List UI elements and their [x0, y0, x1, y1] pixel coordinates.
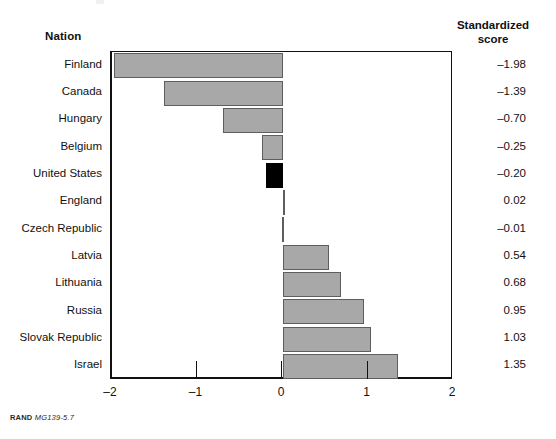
- category-label: Slovak Republic: [0, 331, 102, 343]
- category-label: Belgium: [0, 140, 102, 152]
- score-header-line-2: score: [438, 32, 548, 46]
- score-header-line-1: Standardized: [438, 18, 548, 32]
- score-value: –0.01: [460, 222, 526, 234]
- bar: [283, 299, 364, 324]
- plot-area: [110, 51, 452, 379]
- bar: [223, 108, 283, 133]
- x-axis-tick-label: –1: [176, 385, 216, 399]
- bar: [114, 53, 283, 78]
- x-axis-tick-mark: [196, 361, 197, 379]
- category-label: Latvia: [0, 249, 102, 261]
- nation-column-header: Nation: [45, 30, 81, 42]
- score-value: 1.35: [460, 358, 526, 370]
- bar: [283, 327, 371, 352]
- score-value: –0.70: [460, 112, 526, 124]
- category-label: Hungary: [0, 112, 102, 124]
- scan-artifact: [96, 0, 104, 4]
- category-label: Russia: [0, 304, 102, 316]
- category-axis-labels: FinlandCanadaHungaryBelgiumUnited States…: [0, 51, 102, 379]
- figure-code: MG139-5.7: [35, 413, 74, 422]
- bar: [164, 81, 283, 106]
- score-value: –1.39: [460, 85, 526, 97]
- category-label: England: [0, 194, 102, 206]
- score-value: 1.03: [460, 331, 526, 343]
- category-label: Israel: [0, 358, 102, 370]
- category-label: Finland: [0, 58, 102, 70]
- category-label: Czech Republic: [0, 222, 102, 234]
- source-label: RAND: [10, 413, 32, 422]
- bar: [283, 190, 285, 215]
- score-value: 0.54: [460, 249, 526, 261]
- bar: [282, 217, 284, 242]
- bar: [283, 272, 341, 297]
- category-label: Lithuania: [0, 276, 102, 288]
- x-axis-tick-label: 0: [261, 385, 301, 399]
- score-value: 0.02: [460, 194, 526, 206]
- score-value: 0.95: [460, 304, 526, 316]
- bar: [262, 135, 283, 160]
- x-axis-tick-label: –2: [90, 385, 130, 399]
- category-label: Canada: [0, 85, 102, 97]
- x-axis-tick-label: 1: [347, 385, 387, 399]
- bar: [283, 245, 329, 270]
- bars-layer: [112, 52, 451, 377]
- category-label: United States: [0, 167, 102, 179]
- figure-source-note: RAND MG139-5.7: [10, 413, 74, 422]
- score-value: –1.98: [460, 58, 526, 70]
- chart-figure: Nation Standardized score FinlandCanadaH…: [0, 0, 556, 439]
- x-axis-tick-mark: [281, 361, 282, 379]
- score-value: –0.25: [460, 140, 526, 152]
- score-value: –0.20: [460, 167, 526, 179]
- x-axis-tick-label: 2: [432, 385, 472, 399]
- score-value-column: –1.98–1.39–0.70–0.25–0.200.02–0.010.540.…: [460, 51, 550, 379]
- bar: [266, 163, 283, 188]
- standardized-score-column-header: Standardized score: [438, 18, 548, 46]
- score-value: 0.68: [460, 276, 526, 288]
- bar: [283, 354, 398, 379]
- x-axis-tick-mark: [367, 361, 368, 379]
